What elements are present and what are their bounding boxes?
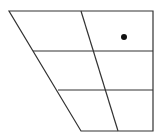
vowel-chart <box>0 0 167 138</box>
vowel-point-marker <box>121 34 127 40</box>
vowel-chart-outline <box>9 11 153 131</box>
central-divider-line <box>81 11 118 131</box>
